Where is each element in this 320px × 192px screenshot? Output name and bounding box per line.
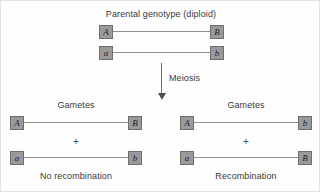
- chromosome-line: [17, 122, 135, 123]
- chromosome-line: [187, 122, 305, 123]
- allele-box-right: B: [128, 116, 142, 130]
- caption-recombination: Recombination: [215, 171, 276, 181]
- allele-box-left: A: [99, 25, 113, 39]
- plus-symbol-left: +: [73, 137, 79, 147]
- allele-box-right: B: [298, 151, 312, 165]
- parental-chromosome-2: a b: [99, 46, 224, 60]
- meiosis-label: Meiosis: [169, 73, 200, 83]
- parental-chromosome-1: A B: [99, 25, 224, 39]
- allele-box-right: b: [128, 151, 142, 165]
- caption-no-recombination: No recombination: [40, 171, 112, 181]
- allele-box-left: A: [180, 116, 194, 130]
- allele-box-left: A: [10, 116, 24, 130]
- arrow-shaft: [161, 63, 162, 94]
- allele-box-right: b: [210, 46, 224, 60]
- meiosis-recombination-diagram: Parental genotype (diploid) A B a b Meio…: [0, 0, 320, 192]
- chromosome-line: [106, 31, 217, 32]
- gametes-heading-right: Gametes: [227, 100, 264, 110]
- chromosome-line: [17, 157, 135, 158]
- allele-box-left: a: [10, 151, 24, 165]
- allele-box-right: B: [210, 25, 224, 39]
- chromosome-line: [187, 157, 305, 158]
- gamete-chromosome-right-1: A b: [180, 116, 312, 130]
- allele-box-right: b: [298, 116, 312, 130]
- chromosome-line: [106, 52, 217, 53]
- gametes-heading-left: Gametes: [57, 100, 94, 110]
- arrow-head-icon: [158, 93, 166, 100]
- diagram-title: Parental genotype (diploid): [106, 9, 216, 19]
- allele-box-left: a: [180, 151, 194, 165]
- gamete-chromosome-right-2: a B: [180, 151, 312, 165]
- gamete-chromosome-left-1: A B: [10, 116, 142, 130]
- gamete-chromosome-left-2: a b: [10, 151, 142, 165]
- allele-box-left: a: [99, 46, 113, 60]
- plus-symbol-right: +: [243, 137, 249, 147]
